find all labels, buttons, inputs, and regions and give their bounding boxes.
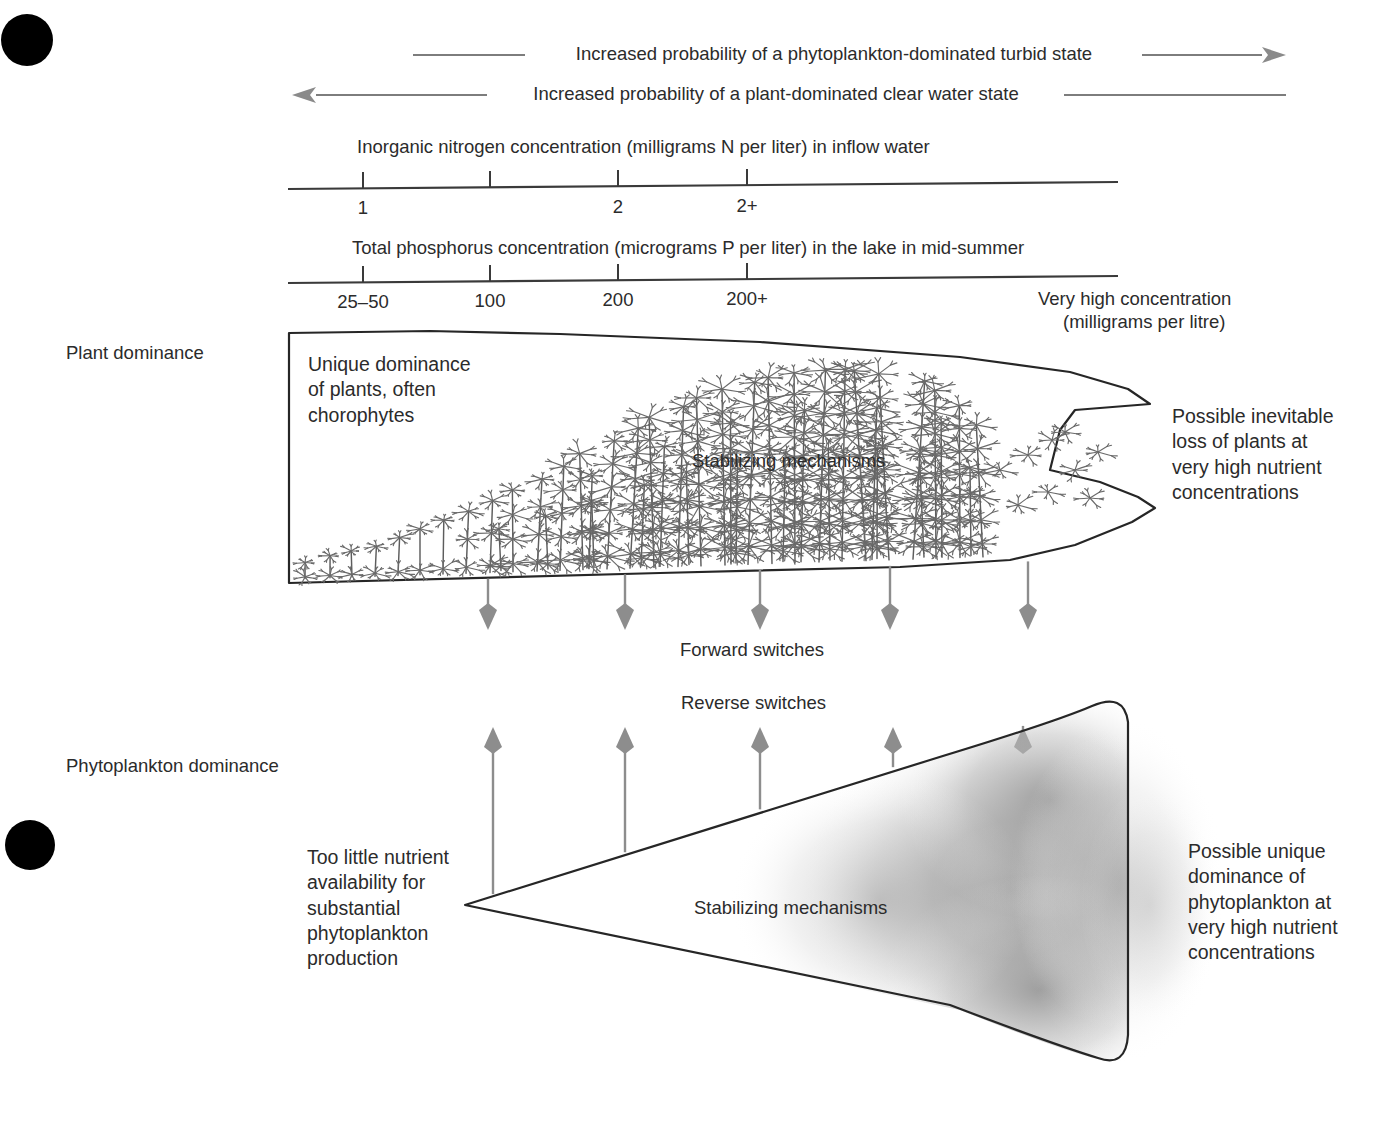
nitrogen-tick-label-3: 2 — [588, 195, 648, 219]
nitrogen-axis — [288, 169, 1118, 189]
phosphorus-axis-caption: Total phosphorus concentration (microgra… — [352, 236, 1024, 260]
stabilizing-mechanisms-upper: Stabilizing mechanisms — [692, 449, 885, 473]
possible-unique-note: Possible unique dominance of phytoplankt… — [1188, 839, 1338, 966]
phosphorus-tick-label-3: 200 — [583, 288, 653, 312]
phosphorus-tick-label-4: 200+ — [707, 287, 787, 311]
page-marker-dot-top — [1, 14, 53, 66]
too-little-nutrient-note: Too little nutrient availability for sub… — [307, 845, 449, 972]
nitrogen-tick-label-1: 1 — [333, 196, 393, 220]
reverse-switches-label: Reverse switches — [681, 691, 826, 715]
diagram-svg — [0, 0, 1390, 1143]
plant-dominance-label: Plant dominance — [66, 341, 204, 365]
page-marker-dot-mid — [5, 820, 55, 870]
unique-dominance-note: Unique dominance of plants, often chorop… — [308, 352, 471, 428]
forward-switch-arrows — [479, 561, 1037, 630]
possible-loss-note: Possible inevitable loss of plants at ve… — [1172, 404, 1334, 505]
forward-switches-label: Forward switches — [680, 638, 824, 662]
stabilizing-mechanisms-lower: Stabilizing mechanisms — [694, 896, 887, 920]
very-high-concentration-line1: Very high concentration — [1038, 287, 1231, 311]
figure-canvas: Increased probability of a phytoplankton… — [0, 0, 1390, 1143]
phosphorus-axis — [288, 263, 1118, 283]
nitrogen-axis-caption: Inorganic nitrogen concentration (millig… — [357, 135, 930, 159]
turbid-state-label: Increased probability of a phytoplankton… — [523, 42, 1145, 66]
very-high-concentration-line2: (milligrams per litre) — [1063, 310, 1225, 334]
phosphorus-tick-label-2: 100 — [455, 289, 525, 313]
phosphorus-tick-label-1: 25–50 — [323, 290, 403, 314]
phytoplankton-dominance-label: Phytoplankton dominance — [66, 754, 279, 778]
clear-water-state-label: Increased probability of a plant-dominat… — [485, 82, 1067, 106]
nitrogen-tick-label-4: 2+ — [717, 194, 777, 218]
